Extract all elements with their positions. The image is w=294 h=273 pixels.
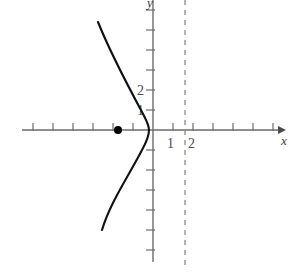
- x-tick-label-2: 2: [188, 136, 195, 151]
- coordinate-plane: x 1 2 y 1 2: [0, 0, 294, 273]
- x-axis-label: x: [280, 133, 287, 148]
- y-axis-label: y: [145, 0, 153, 10]
- graph-figure: x 1 2 y 1 2: [0, 0, 294, 273]
- focus-point: [114, 126, 122, 134]
- x-tick-label-1: 1: [167, 136, 174, 151]
- y-tick-label-2: 2: [137, 83, 144, 98]
